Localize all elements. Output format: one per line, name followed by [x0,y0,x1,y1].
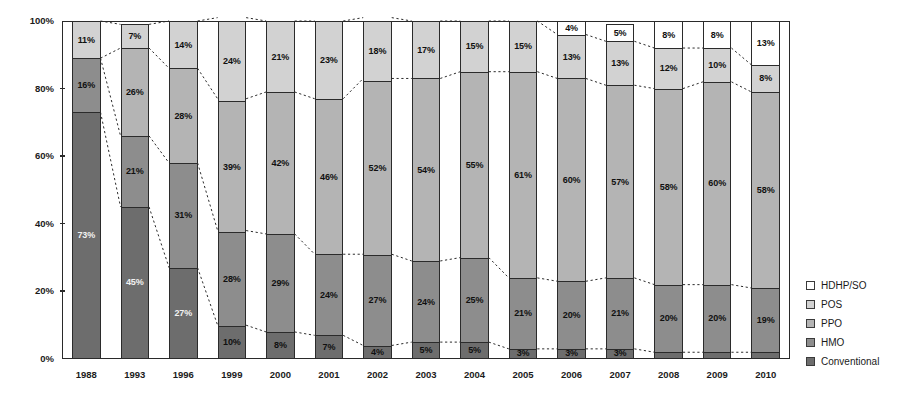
legend-item[interactable]: Conventional [806,352,910,371]
bar-segment[interactable]: 28% [169,68,198,163]
bar-segment[interactable]: 4% [557,21,586,35]
bar-segment-value-label: 25% [466,296,484,305]
bar-column[interactable]: 8%12%58%20% [654,21,683,359]
bar-segment[interactable]: 57% [606,85,635,278]
x-axis-tick-label: 2006 [547,369,596,380]
bar-segment[interactable]: 25% [460,258,489,343]
bar-column[interactable]: 7%26%21%45% [121,21,150,359]
legend-swatch-icon [806,357,815,366]
bar-segment[interactable]: 16% [72,58,101,112]
bar-segment[interactable]: 14% [169,21,198,68]
bar-segment[interactable]: 58% [751,92,780,288]
bar-segment[interactable]: 20% [703,285,732,353]
bar-segment[interactable]: 12% [654,48,683,89]
bar-segment[interactable]: 31% [169,163,198,268]
legend-item[interactable]: HDHP/SO [806,276,910,295]
bar-segment[interactable]: 15% [509,21,538,72]
legend-item[interactable]: HMO [806,333,910,352]
bar-segment[interactable]: 29% [266,234,295,332]
bar-segment[interactable]: 23% [315,21,344,99]
bar-column[interactable]: 15%61%21%3% [509,21,538,359]
bar-segment[interactable]: 39% [218,101,247,232]
bar-column[interactable]: 15%55%25%5% [460,21,489,359]
bar-segment-value-label: 12% [660,64,678,73]
bar-segment[interactable]: 10% [703,48,732,82]
bar-column[interactable]: 13%8%58%19% [751,21,780,359]
bar-segment[interactable]: 7% [315,335,344,359]
bar-segment[interactable]: 52% [363,81,392,255]
bar-segment[interactable]: 27% [363,255,392,345]
bar-segment[interactable]: 28% [218,232,247,326]
bar-segment[interactable]: 24% [412,261,441,342]
bar-segment[interactable]: 42% [266,92,295,234]
bar-segment[interactable]: 15% [460,21,489,72]
bar-segment[interactable]: 21% [509,278,538,349]
bar-segment[interactable]: 4% [363,346,392,359]
bar-segment[interactable]: 60% [557,78,586,281]
legend-label: HMO [821,337,844,348]
legend-item[interactable]: POS [806,295,910,314]
bar-segment-value-label: 24% [223,57,241,66]
bar-segment-value-label: 10% [223,338,241,347]
bar-segment[interactable]: 21% [121,136,150,207]
y-axis-tick-label: 20% [8,285,54,296]
bar-column[interactable]: 11%16%73% [72,21,101,359]
bar-segment[interactable]: 24% [315,254,344,335]
bar-segment[interactable]: 13% [557,35,586,79]
bar-column[interactable]: 18%52%27%4% [363,21,392,359]
bar-column[interactable]: 23%46%24%7% [315,21,344,359]
bar-segment[interactable]: 61% [509,72,538,278]
bar-segment[interactable]: 73% [72,112,101,359]
bar-segment[interactable]: 3% [557,349,586,359]
bar-segment-value-label: 8% [662,31,675,40]
bar-segment[interactable]: 3% [509,349,538,359]
bar-segment[interactable]: 8% [654,21,683,48]
y-axis-tick-label: 100% [8,15,54,26]
bar-segment[interactable]: 46% [315,99,344,254]
bar-segment[interactable]: 45% [121,207,150,359]
bar-segment[interactable]: 5% [412,342,441,359]
bar-segment[interactable]: 58% [654,89,683,285]
bar-segment[interactable]: 5% [460,342,489,359]
bar-segment[interactable]: 13% [751,21,780,65]
bar-segment[interactable]: 3% [606,349,635,359]
bar-segment[interactable]: 21% [266,21,295,92]
bar-segment[interactable]: 20% [654,285,683,353]
bar-segment[interactable]: 8% [266,332,295,359]
bar-column[interactable]: 8%10%60%20% [703,21,732,359]
bar-segment[interactable]: 54% [412,78,441,261]
bar-column[interactable]: 5%13%57%21%3% [606,21,635,359]
bar-segment[interactable]: 20% [557,281,586,349]
bar-segment[interactable] [654,352,683,359]
bar-column[interactable]: 14%28%31%27% [169,21,198,359]
bar-column[interactable]: 4%13%60%20%3% [557,21,586,359]
bar-segment[interactable]: 27% [169,268,198,359]
bar-segment[interactable]: 10% [218,326,247,359]
x-axis-tick-label: 2000 [256,369,305,380]
bar-segment[interactable] [751,352,780,359]
bar-column[interactable]: 24%39%28%10% [218,21,247,359]
bar-segment[interactable]: 24% [218,21,247,101]
bar-column[interactable]: 17%54%24%5% [412,21,441,359]
bar-column[interactable]: 21%42%29%8% [266,21,295,359]
bar-segment[interactable]: 11% [72,21,101,58]
bar-segment[interactable]: 8% [751,65,780,92]
legend-swatch-icon [806,281,815,290]
bar-segment-value-label: 26% [126,88,144,97]
bar-segment[interactable]: 18% [363,21,392,81]
bar-segment-value-label: 28% [174,112,192,121]
legend-label: POS [821,299,842,310]
legend-item[interactable]: PPO [806,314,910,333]
bar-segment[interactable]: 8% [703,21,732,48]
bar-segment[interactable]: 7% [121,24,150,48]
bar-segment[interactable]: 17% [412,21,441,78]
bar-segment-value-label: 28% [223,275,241,284]
bar-segment[interactable]: 13% [606,41,635,85]
bar-segment[interactable]: 5% [606,24,635,41]
bar-segment[interactable]: 21% [606,278,635,349]
bar-segment[interactable]: 60% [703,82,732,285]
bar-segment[interactable]: 26% [121,48,150,136]
bar-segment[interactable] [703,352,732,359]
bar-segment[interactable]: 19% [751,288,780,352]
bar-segment[interactable]: 55% [460,72,489,258]
